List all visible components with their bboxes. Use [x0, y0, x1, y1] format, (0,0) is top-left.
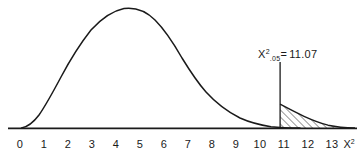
critical-subscript: .05 [270, 55, 281, 62]
x-axis-tick-labels: 0 1 2 3 4 5 6 7 8 9 10 11 12 13 [17, 138, 339, 150]
tick-label-2: 2 [65, 138, 72, 150]
tick-label-12: 12 [301, 138, 314, 150]
tick-label-5: 5 [137, 138, 144, 150]
tick-label-8: 8 [209, 138, 216, 150]
critical-value-label: X2.05=11.07 [258, 48, 317, 62]
tick-label-4: 4 [113, 138, 120, 150]
chi-square-distribution-figure: X2.05=11.07 0 1 2 3 4 5 6 7 8 9 10 11 12… [0, 0, 363, 156]
tick-label-0: 0 [17, 138, 24, 150]
tick-label-1: 1 [41, 138, 48, 150]
x-axis-title-exponent: 2 [351, 138, 355, 145]
tick-label-11: 11 [278, 138, 290, 150]
tick-label-6: 6 [161, 138, 168, 150]
tick-label-9: 9 [233, 138, 240, 150]
tail-hatch-fill [278, 100, 358, 130]
shaded-tail-region [278, 100, 358, 130]
critical-equals: = [280, 48, 287, 60]
tick-label-13: 13 [325, 138, 338, 150]
critical-exponent: 2 [266, 48, 270, 55]
tick-label-7: 7 [185, 138, 192, 150]
tick-label-3: 3 [89, 138, 96, 150]
tick-label-10: 10 [253, 138, 266, 150]
critical-number: 11.07 [289, 48, 317, 60]
x-axis-title: X2 [343, 138, 354, 150]
density-curve [22, 8, 301, 128]
